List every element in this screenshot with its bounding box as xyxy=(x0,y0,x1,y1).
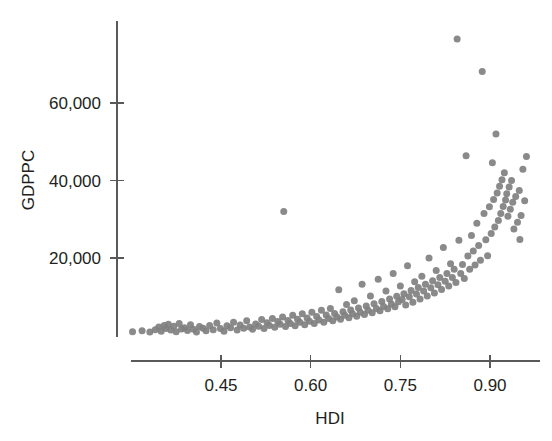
data-point xyxy=(490,196,497,203)
x-tick-label: 0.45 xyxy=(204,376,237,395)
data-point xyxy=(488,230,495,237)
data-point xyxy=(468,232,475,239)
y-tick-label: 60,000 xyxy=(49,94,101,113)
data-point xyxy=(497,210,504,217)
data-point xyxy=(431,289,438,296)
data-point xyxy=(516,187,523,194)
data-point xyxy=(367,292,374,299)
data-point xyxy=(455,237,462,244)
data-point xyxy=(454,36,461,43)
data-point xyxy=(516,236,523,243)
data-point xyxy=(359,281,366,288)
data-point xyxy=(375,276,382,283)
data-point xyxy=(404,262,411,269)
data-point xyxy=(508,177,515,184)
y-tick-label: 40,000 xyxy=(49,172,101,191)
data-point xyxy=(139,327,146,334)
data-point xyxy=(390,270,397,277)
data-point xyxy=(514,219,521,226)
data-point xyxy=(500,203,507,210)
plot-canvas: 0.450.600.750.90 20,00040,00060,000 HDI … xyxy=(0,0,552,441)
data-point xyxy=(510,225,517,232)
data-point xyxy=(498,176,505,183)
data-point xyxy=(459,261,466,268)
data-point xyxy=(230,319,237,326)
data-point xyxy=(409,299,416,306)
data-point xyxy=(484,252,491,259)
data-point xyxy=(519,166,526,173)
data-point xyxy=(482,236,489,243)
data-point xyxy=(433,267,440,274)
data-point xyxy=(506,184,513,191)
data-point xyxy=(417,296,424,303)
data-point xyxy=(445,282,452,289)
data-point xyxy=(411,278,418,285)
data-point xyxy=(481,210,488,217)
data-point xyxy=(504,213,511,220)
data-point xyxy=(464,253,471,260)
data-point xyxy=(496,183,503,190)
data-point xyxy=(472,261,479,268)
data-points-layer xyxy=(129,36,530,336)
x-tick-label: 0.60 xyxy=(294,376,327,395)
data-point xyxy=(210,326,217,333)
data-point xyxy=(470,248,477,255)
y-axis-title: GDPPC xyxy=(19,150,38,210)
data-point xyxy=(479,68,486,75)
data-point xyxy=(475,242,482,249)
x-axis-title: HDI xyxy=(315,409,344,428)
data-point xyxy=(491,224,498,231)
data-point xyxy=(397,282,404,289)
x-tick-label: 0.90 xyxy=(473,376,506,395)
data-point xyxy=(335,286,342,293)
data-point xyxy=(440,244,447,251)
data-point xyxy=(129,328,136,335)
scatter-plot-figure: 0.450.600.750.90 20,00040,00060,000 HDI … xyxy=(0,0,552,441)
data-point xyxy=(503,190,510,197)
data-point xyxy=(518,212,525,219)
data-point xyxy=(502,196,509,203)
data-point xyxy=(489,159,496,166)
data-point xyxy=(451,266,458,273)
data-point xyxy=(521,197,528,204)
data-point xyxy=(501,169,508,176)
data-point xyxy=(402,301,409,308)
data-point xyxy=(477,257,484,264)
data-point xyxy=(382,287,389,294)
x-tick-label: 0.75 xyxy=(384,376,417,395)
y-axis-ticks: 20,00040,00060,000 xyxy=(49,94,124,268)
data-point xyxy=(495,217,502,224)
data-point xyxy=(438,286,445,293)
data-point xyxy=(426,255,433,262)
data-point xyxy=(452,279,459,286)
data-point xyxy=(507,206,514,213)
data-point xyxy=(243,317,250,324)
data-point xyxy=(424,292,431,299)
y-tick-label: 20,000 xyxy=(49,249,101,268)
data-point xyxy=(492,131,499,138)
data-point xyxy=(473,220,480,227)
data-point xyxy=(523,153,530,160)
data-point xyxy=(486,203,493,210)
data-point xyxy=(463,152,470,159)
data-point xyxy=(494,189,501,196)
data-point xyxy=(512,193,519,200)
data-point xyxy=(240,325,247,332)
data-point xyxy=(351,297,358,304)
data-point xyxy=(280,208,287,215)
data-point xyxy=(418,273,425,280)
data-point xyxy=(461,275,468,282)
